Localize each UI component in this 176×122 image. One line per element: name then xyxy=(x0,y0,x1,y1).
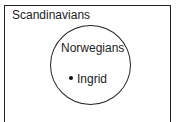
norwegians-label: Norwegians xyxy=(61,41,124,55)
scandinavians-label: Scandinavians xyxy=(12,8,90,22)
ingrid-label: Ingrid xyxy=(77,72,107,86)
element-dot-icon xyxy=(69,76,73,80)
norwegians-set-circle xyxy=(50,25,131,105)
